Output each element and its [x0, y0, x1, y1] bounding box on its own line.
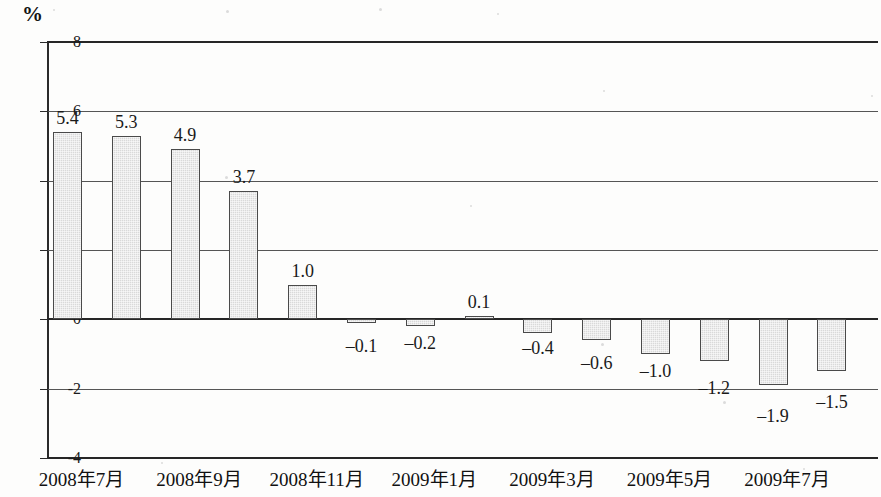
x-tick-label: 2009年7月	[712, 470, 862, 489]
scan-speckle	[803, 468, 805, 470]
scan-speckle	[601, 343, 604, 346]
bar-value-label: –1.5	[799, 393, 864, 411]
scan-speckle	[379, 8, 382, 11]
y-axis-unit-label: %	[22, 2, 43, 27]
scan-speckle	[497, 13, 499, 15]
scan-speckle	[871, 95, 873, 97]
scan-speckle	[53, 9, 55, 11]
gridline-6	[47, 111, 878, 112]
bar	[53, 132, 82, 319]
bar-value-label: –0.1	[329, 337, 394, 355]
bar-value-label: 3.7	[211, 168, 276, 186]
bar	[817, 319, 846, 371]
bar	[406, 319, 435, 326]
bar-value-label: 5.4	[35, 109, 100, 127]
bar	[347, 319, 376, 322]
y-tick-label: -2	[35, 380, 81, 398]
bar	[112, 136, 141, 320]
gridline-neg2	[47, 389, 878, 390]
bar-value-label: –1.2	[682, 379, 747, 397]
scan-speckle	[225, 176, 228, 179]
scan-speckle	[470, 205, 472, 207]
bar	[288, 285, 317, 320]
bar-value-label: –0.6	[564, 354, 629, 372]
bar	[229, 191, 258, 319]
plot-area: 86420-2-4 5.45.34.93.71.0–0.1–0.20.1–0.4…	[47, 42, 878, 458]
bar-chart: % 86420-2-4 5.45.34.93.71.0–0.1–0.20.1–0…	[0, 0, 881, 497]
bar-value-label: –1.9	[741, 407, 806, 425]
gridline-neg4	[47, 457, 878, 459]
bar	[700, 319, 729, 361]
y-tick-label: 8	[35, 33, 81, 51]
bar	[171, 149, 200, 319]
bar	[641, 319, 670, 354]
bar-value-label: 1.0	[270, 262, 335, 280]
bar	[465, 316, 494, 319]
scan-speckle	[603, 90, 605, 92]
bar-value-label: 5.3	[94, 113, 159, 131]
gridline-8	[47, 41, 878, 43]
bar-value-label: –1.0	[623, 362, 688, 380]
bar-value-label: –0.4	[505, 339, 570, 357]
scan-speckle	[723, 401, 726, 404]
scan-speckle	[161, 462, 163, 464]
bar	[582, 319, 611, 340]
scan-speckle	[226, 10, 229, 13]
bar	[523, 319, 552, 333]
bar-value-label: 4.9	[153, 126, 218, 144]
y-tick-label: -4	[35, 449, 81, 467]
bar	[759, 319, 788, 385]
bar-value-label: 0.1	[447, 293, 512, 311]
bar-value-label: –0.2	[388, 334, 453, 352]
